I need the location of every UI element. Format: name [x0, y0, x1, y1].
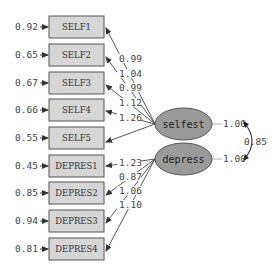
error-value-self4: 0.66 — [15, 104, 38, 115]
label-depres3: DEPRES3 — [55, 216, 98, 226]
error-value-self2: 0.65 — [15, 49, 38, 60]
latent-label-selfest: selfest — [162, 119, 204, 130]
loading-values: 0.99 1.04 0.99 1.12 1.26 1.23 0.87 1.06 … — [117, 53, 142, 210]
loading-value-self5: 1.26 — [119, 112, 142, 123]
loading-value-depres4: 1.10 — [119, 199, 142, 210]
error-value-depres3: 0.94 — [15, 215, 38, 226]
loading-value-depres2: 0.87 — [119, 171, 142, 182]
error-values: 0.92 0.65 0.67 0.66 0.55 0.45 0.85 0.94 … — [15, 21, 38, 254]
error-value-self3: 0.67 — [15, 77, 38, 88]
diagram-svg: 0.92 0.65 0.67 0.66 0.55 0.45 0.85 0.94 … — [0, 0, 276, 276]
label-depres4: DEPRES4 — [55, 244, 98, 254]
loading-value-self4: 1.12 — [119, 97, 142, 108]
error-value-self1: 0.92 — [15, 21, 38, 32]
variance-depress: 1.00 — [223, 153, 246, 164]
loading-value-depres3: 1.06 — [119, 185, 142, 196]
loading-arrow-self5 — [106, 124, 155, 142]
loading-value-self2: 1.04 — [119, 68, 142, 79]
latent-variables: selfest depress — [155, 108, 212, 175]
path-diagram: 0.92 0.65 0.67 0.66 0.55 0.45 0.85 0.94 … — [0, 0, 276, 276]
error-arrows — [40, 27, 48, 249]
label-self3: SELF3 — [62, 78, 91, 88]
label-self2: SELF2 — [62, 50, 91, 60]
latent-label-depress: depress — [162, 154, 204, 165]
label-depres1: DEPRES1 — [55, 161, 98, 171]
error-value-self5: 0.55 — [15, 132, 38, 143]
error-value-depres1: 0.45 — [15, 160, 38, 171]
error-value-depres2: 0.85 — [15, 187, 38, 198]
label-self1: SELF1 — [62, 22, 91, 32]
loading-value-self1: 0.99 — [119, 53, 142, 64]
latent-variance-lines — [212, 124, 222, 159]
loading-value-depres1: 1.23 — [119, 157, 142, 168]
variance-selfest: 1.00 — [223, 118, 246, 129]
covariance-value: 0.85 — [244, 136, 267, 147]
error-value-depres4: 0.81 — [15, 243, 38, 254]
loading-value-self3: 0.99 — [119, 82, 142, 93]
label-self4: SELF4 — [62, 105, 91, 115]
label-self5: SELF5 — [62, 133, 91, 143]
label-depres2: DEPRES2 — [55, 188, 98, 198]
